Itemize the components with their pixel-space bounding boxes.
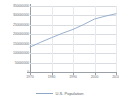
y-tick-label: 350000000 — [1, 4, 29, 8]
x-axis-tick-labels: 19701980199020002010 — [30, 75, 116, 83]
legend-label: U.S. Population — [56, 91, 84, 96]
y-tick-label: 150000000 — [1, 42, 29, 46]
y-tick-label: 200000000 — [1, 32, 29, 36]
population-line-chart: 3500000003000000002500000002000000001500… — [0, 0, 119, 103]
y-tick-label: 0 — [1, 70, 29, 74]
x-axis-line — [27, 72, 116, 73]
series-us-population — [30, 6, 116, 72]
x-tick-label: 1970 — [26, 75, 34, 80]
legend: U.S. Population — [0, 88, 119, 98]
x-tick-label: 1980 — [48, 75, 56, 80]
x-tick-label: 2010 — [112, 75, 119, 80]
x-tick-label: 1990 — [69, 75, 77, 80]
y-axis-tick-labels: 3500000003000000002500000002000000001500… — [0, 6, 29, 72]
y-tick-label: 250000000 — [1, 23, 29, 27]
plot-area — [30, 6, 116, 72]
vertical-gridline — [116, 6, 117, 72]
y-tick-label: 50000000 — [1, 61, 29, 65]
y-tick-label: 300000000 — [1, 13, 29, 17]
y-tick-label: 100000000 — [1, 51, 29, 55]
x-tick-label: 2000 — [91, 75, 99, 80]
legend-line-swatch — [36, 93, 53, 94]
